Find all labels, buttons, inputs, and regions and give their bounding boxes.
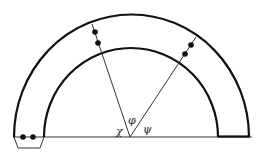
angle-label-psi: ψ (143, 123, 152, 136)
right-line-dot-inner (182, 51, 188, 57)
angle-label-phi: φ (128, 114, 136, 127)
right-line-dot-outer (188, 42, 194, 48)
diagram-canvas: χ φ ψ (0, 0, 264, 153)
left-line-dot-inner (95, 40, 101, 46)
angle-label-chi: χ (115, 125, 124, 138)
left-end-box (14, 137, 44, 148)
left-dot-1 (20, 134, 26, 140)
left-line-dot-outer (92, 29, 98, 35)
left-dot-2 (30, 134, 36, 140)
